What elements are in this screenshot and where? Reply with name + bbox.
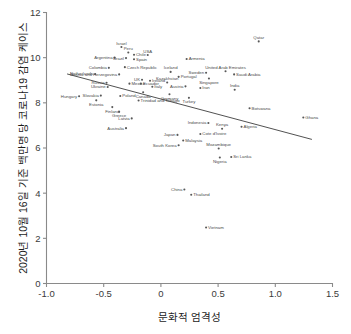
point-marker bbox=[184, 85, 186, 87]
data-point: Iceland bbox=[164, 65, 178, 72]
x-tick-group: -1.0-0.500.51.01.5 bbox=[38, 284, 339, 300]
point-label: Japan bbox=[164, 132, 176, 137]
data-point: Kenya bbox=[216, 122, 229, 129]
data-point: Armenia bbox=[186, 56, 206, 61]
data-point: Algeria bbox=[241, 124, 258, 129]
point-label: Czech Republic bbox=[127, 65, 158, 70]
data-point: Portugal bbox=[178, 74, 197, 79]
point-label: Turkey bbox=[182, 99, 196, 104]
point-label: China bbox=[171, 187, 183, 192]
point-label: Vietnam bbox=[208, 225, 224, 230]
x-axis-group: -1.0-0.500.51.01.5 bbox=[38, 284, 339, 300]
point-marker bbox=[124, 66, 126, 68]
data-point: Iran bbox=[199, 85, 210, 90]
point-marker bbox=[125, 127, 127, 129]
data-point: Singapore bbox=[199, 77, 219, 84]
x-tick-label: -1.0 bbox=[38, 288, 54, 299]
point-label: Argentina bbox=[94, 55, 113, 60]
point-label: India bbox=[230, 83, 240, 88]
point-label: Botswana bbox=[252, 106, 271, 111]
point-label: Bosnia and Herzegovina bbox=[70, 72, 117, 77]
x-tick-label: 1.5 bbox=[326, 288, 339, 299]
point-label: Iran bbox=[202, 85, 210, 90]
point-marker bbox=[218, 147, 220, 149]
point-marker bbox=[234, 89, 236, 91]
point-label: Slovakia bbox=[83, 93, 100, 98]
point-label: Saudi Arabia bbox=[236, 72, 261, 77]
point-marker bbox=[107, 86, 109, 88]
y-tick-label: 12 bbox=[30, 7, 41, 18]
point-label: Portugal bbox=[181, 74, 197, 79]
point-marker bbox=[182, 139, 184, 141]
data-point: Austria bbox=[170, 84, 186, 89]
point-label: Brazil bbox=[113, 56, 124, 61]
point-label: Mozambique bbox=[206, 142, 231, 147]
data-point: Bosnia and Herzegovina bbox=[70, 72, 120, 77]
point-marker bbox=[106, 82, 108, 84]
y-tick-label: 4 bbox=[35, 188, 40, 199]
data-point: South Korea bbox=[153, 143, 180, 148]
point-label: Poland bbox=[122, 93, 136, 98]
point-label: Hungary bbox=[61, 94, 78, 99]
point-label: Ukraine bbox=[91, 84, 106, 89]
point-label: Estonia bbox=[89, 102, 104, 107]
point-label: Qatar bbox=[253, 35, 264, 40]
point-marker bbox=[190, 194, 192, 196]
point-marker bbox=[241, 126, 243, 128]
point-label: Singapore bbox=[199, 80, 219, 85]
data-point: Botswana bbox=[249, 106, 272, 111]
point-label: Latvia bbox=[118, 116, 130, 121]
y-tick-label: 2 bbox=[35, 233, 40, 244]
point-label: Italy bbox=[154, 84, 163, 89]
data-point: Saudi Arabia bbox=[233, 72, 261, 77]
point-label: Australia bbox=[107, 126, 124, 131]
data-point: Trinidad and Tobago bbox=[138, 98, 181, 103]
point-marker bbox=[233, 73, 235, 75]
point-label: Ghana bbox=[305, 115, 319, 120]
point-label: Iceland bbox=[164, 65, 178, 70]
x-tick-label: 1.0 bbox=[269, 288, 282, 299]
point-label: Kenya bbox=[216, 122, 229, 127]
point-label: Spain bbox=[136, 57, 148, 62]
point-marker bbox=[205, 226, 207, 228]
point-label: Colombia bbox=[89, 65, 108, 70]
point-marker bbox=[125, 57, 127, 59]
point-marker bbox=[128, 83, 130, 85]
point-marker bbox=[151, 86, 153, 88]
point-label: Israel bbox=[116, 41, 127, 46]
point-marker bbox=[178, 144, 180, 146]
point-marker bbox=[100, 95, 102, 97]
y-axis-title: 2020년 10월 16일 기준 백만명 당 코로나19 감염 케이스 bbox=[17, 22, 29, 274]
point-marker bbox=[131, 117, 133, 119]
point-label: Thailand bbox=[193, 192, 210, 197]
point-marker bbox=[176, 134, 178, 136]
data-point: Sri Lanka bbox=[230, 154, 252, 159]
point-label: Sri Lanka bbox=[233, 154, 252, 159]
point-label: Kazakhstan bbox=[156, 76, 179, 81]
point-label: Peru bbox=[124, 46, 134, 51]
point-label: Nigeria bbox=[213, 159, 227, 164]
point-marker bbox=[221, 128, 223, 130]
x-axis-title: 문화적 엄격성 bbox=[158, 311, 221, 323]
point-marker bbox=[183, 189, 185, 191]
data-point: Czech Republic bbox=[124, 65, 158, 70]
point-label: Cote d'Ivoire bbox=[202, 131, 227, 136]
data-point: Cote d'Ivoire bbox=[199, 131, 227, 136]
plot-canvas: 024681012 -1.0-0.500.51.01.5 QatarIsrael… bbox=[0, 0, 351, 334]
point-marker bbox=[133, 54, 135, 56]
x-tick-label: -0.5 bbox=[96, 288, 112, 299]
point-marker bbox=[140, 83, 142, 85]
x-tick-label: 0 bbox=[158, 288, 163, 299]
point-label: Indonesia bbox=[188, 120, 207, 125]
point-marker bbox=[120, 46, 122, 48]
y-tick-label: 10 bbox=[30, 52, 41, 63]
data-point: Malaysia bbox=[182, 138, 203, 143]
data-point: Japan bbox=[164, 132, 179, 137]
point-marker bbox=[230, 156, 232, 158]
data-point: Spain bbox=[133, 57, 148, 62]
point-marker bbox=[224, 70, 226, 72]
y-tick-label: 6 bbox=[35, 142, 40, 153]
x-tick-label: 0.5 bbox=[211, 288, 224, 299]
data-point: Ukraine bbox=[91, 84, 109, 89]
scatter-plot-figure: 024681012 -1.0-0.500.51.01.5 QatarIsrael… bbox=[0, 0, 351, 334]
